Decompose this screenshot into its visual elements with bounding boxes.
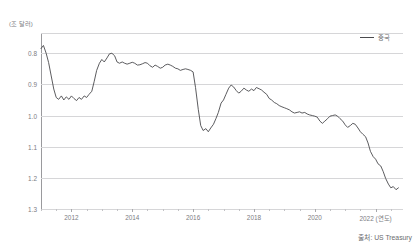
plot-area: 1.31.21.11.00.90.8 [41, 33, 403, 209]
x-axis-tick-major [376, 209, 377, 212]
x-axis-tick-minor [102, 209, 103, 211]
y-axis-tick-label: 0.8 [28, 50, 37, 57]
x-axis-tick-minor [56, 209, 57, 211]
x-axis-tick-minor [391, 209, 392, 211]
y-axis-unit-label: (조 달러) [9, 19, 33, 28]
x-axis-tick-major [71, 209, 72, 212]
x-axis-tick-major [315, 209, 316, 212]
legend-swatch-china [360, 37, 374, 38]
x-axis-tick-major [193, 209, 194, 212]
x-axis-tick-minor [208, 209, 209, 211]
y-axis-tick-label: 1.3 [28, 206, 37, 213]
gridline-y: 1.3 [41, 209, 403, 210]
x-axis-tick-label: 2022 (연도) [359, 214, 391, 223]
x-axis-tick-minor [178, 209, 179, 211]
x-axis-tick-minor [345, 209, 346, 211]
x-axis-tick-minor [41, 209, 42, 211]
x-axis-tick-minor [239, 209, 240, 211]
x-axis-tick-minor [87, 209, 88, 211]
series-line-china [41, 33, 403, 209]
chart-container: (조 달러) 1.31.21.11.00.90.8 20122014201620… [0, 0, 420, 248]
x-axis-tick-label: 2016 [186, 214, 200, 221]
x-axis-tick-minor [360, 209, 361, 211]
x-axis-tick-label: 2014 [125, 214, 139, 221]
y-axis-tick-label: 1.0 [28, 112, 37, 119]
y-axis-tick-label: 1.1 [28, 143, 37, 150]
x-axis-tick-minor [269, 209, 270, 211]
x-axis-tick-minor [163, 209, 164, 211]
x-axis-tick-label: 2020 [308, 214, 322, 221]
legend: 중국 [360, 33, 390, 42]
x-axis-tick-label: 2012 [64, 214, 78, 221]
source-note: 출처: US Treasury [358, 232, 412, 242]
legend-label-china: 중국 [378, 33, 390, 42]
x-axis-tick-minor [147, 209, 148, 211]
x-axis-tick-label: 2018 [247, 214, 261, 221]
x-axis-tick-minor [117, 209, 118, 211]
x-axis-tick-minor [284, 209, 285, 211]
x-axis-tick-minor [300, 209, 301, 211]
x-axis-tick-major [254, 209, 255, 212]
y-axis-tick-label: 1.2 [28, 174, 37, 181]
x-axis-tick-minor [330, 209, 331, 211]
y-axis-tick-label: 0.9 [28, 81, 37, 88]
x-axis-tick-major [132, 209, 133, 212]
x-axis-tick-minor [224, 209, 225, 211]
